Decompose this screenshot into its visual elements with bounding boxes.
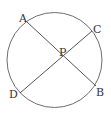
circle	[7, 13, 102, 108]
label-p: P	[59, 46, 67, 59]
label-b: B	[96, 86, 104, 99]
label-c: C	[93, 23, 101, 36]
circle-chords-diagram: A C P D B	[0, 0, 111, 114]
chord-cd	[20, 31, 92, 93]
label-d: D	[9, 88, 18, 101]
label-a: A	[18, 12, 28, 25]
